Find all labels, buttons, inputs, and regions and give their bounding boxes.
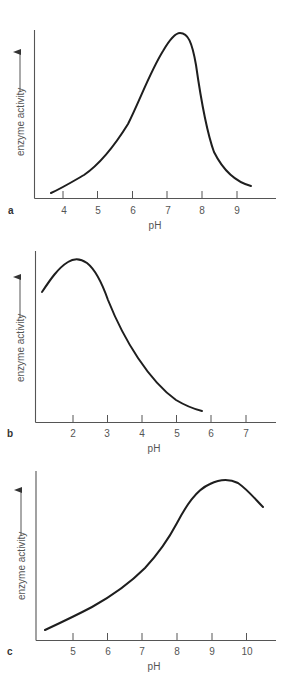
x-ticks (63, 191, 237, 198)
svg-text:enzyme activity: enzyme activity (15, 88, 26, 156)
y-axis-label: enzyme activity (15, 52, 26, 156)
chart-panel-a: 4 5 6 7 8 9 pH a enzyme activity (8, 30, 276, 231)
x-tick-label: 5 (95, 205, 101, 216)
y-axis-label: enzyme activity (16, 490, 27, 600)
x-tick-label: 4 (61, 205, 67, 216)
y-axis-label: enzyme activity (15, 277, 26, 382)
x-tick-label: 3 (104, 428, 110, 439)
x-axis-label: pH (148, 443, 161, 454)
chart-panel-c: 5 6 7 8 9 10 pH c enzyme activity (7, 471, 276, 672)
activity-curve (42, 259, 202, 411)
panel-letter: c (7, 646, 13, 657)
x-axis-label: pH (149, 220, 162, 231)
panel-letter: b (7, 428, 13, 439)
enzyme-ph-figure: 4 5 6 7 8 9 pH a enzyme activity 2 3 4 5… (0, 0, 288, 692)
chart-panel-b: 2 3 4 5 6 7 pH b enzyme activity (7, 251, 276, 454)
x-ticks (73, 633, 247, 640)
x-tick-label: 9 (234, 205, 240, 216)
x-ticks (73, 415, 246, 422)
svg-text:enzyme activity: enzyme activity (16, 532, 27, 600)
x-tick-label: 5 (174, 428, 180, 439)
x-tick-label: 8 (199, 205, 205, 216)
x-tick-label: 5 (70, 646, 76, 657)
x-tick-label: 7 (243, 428, 249, 439)
x-tick-label: 8 (174, 646, 180, 657)
x-tick-label: 7 (139, 646, 145, 657)
x-tick-label: 6 (208, 428, 214, 439)
x-tick-label: 2 (70, 428, 76, 439)
x-tick-label: 9 (209, 646, 215, 657)
x-tick-label: 10 (241, 646, 253, 657)
panel-letter: a (8, 205, 14, 216)
x-tick-label: 6 (130, 205, 136, 216)
svg-text:enzyme activity: enzyme activity (15, 314, 26, 382)
activity-curve (45, 480, 263, 630)
x-tick-label: 7 (165, 205, 171, 216)
x-tick-label: 4 (139, 428, 145, 439)
x-tick-label: 6 (105, 646, 111, 657)
activity-curve (51, 33, 251, 193)
x-axis-label: pH (148, 661, 161, 672)
